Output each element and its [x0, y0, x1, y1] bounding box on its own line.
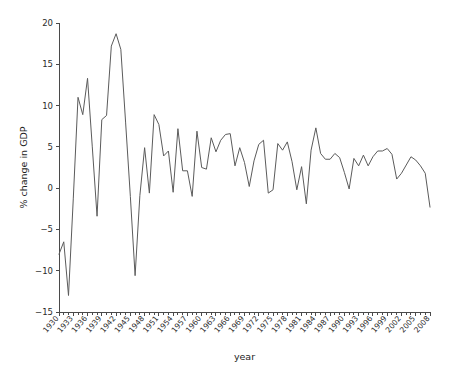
y-tick-label: 5	[48, 142, 53, 152]
plot-area: −15−10−505101520193019331936193919421945…	[18, 18, 432, 362]
y-tick-label: 0	[48, 183, 53, 193]
x-axis-title: year	[234, 351, 255, 362]
y-axis-title: % change in GDP	[18, 126, 29, 208]
data-series-line	[59, 34, 430, 296]
y-tick-label: −15	[35, 307, 53, 317]
chart-figure: −15−10−505101520193019331936193919421945…	[0, 0, 456, 365]
y-tick-label: −5	[40, 224, 53, 234]
y-tick-label: −10	[35, 266, 53, 276]
y-tick-label: 20	[42, 18, 53, 28]
y-tick-label: 10	[42, 101, 53, 111]
gdp-percent-change-line-chart: −15−10−505101520193019331936193919421945…	[0, 0, 456, 365]
x-tick-label: 2008	[412, 314, 431, 335]
y-tick-label: 15	[42, 59, 53, 69]
y-axis-title-group: % change in GDP	[18, 126, 29, 208]
x-tick-label-group: 2008	[412, 314, 431, 335]
